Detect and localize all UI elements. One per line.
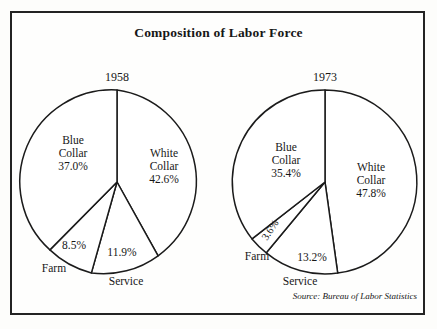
- label-blue-collar-1973-line2: Collar: [271, 154, 301, 167]
- label-service-1973-value: 13.2%: [297, 251, 327, 263]
- label-white-collar-1973-value: 47.8%: [356, 187, 386, 200]
- label-farm-1973-name: Farm: [245, 250, 269, 262]
- label-blue-collar-1973-line1: Blue: [271, 141, 301, 154]
- label-white-collar-1973: White Collar 47.8%: [356, 161, 386, 200]
- source-note: Source: Bureau of Labor Statistics: [293, 291, 417, 301]
- figure-canvas: Composition of Labor Force 1958 Blue Col…: [0, 0, 437, 329]
- label-service-1973-name: Service: [283, 275, 317, 287]
- label-blue-collar-1973: Blue Collar 35.4%: [271, 141, 301, 180]
- label-white-collar-1973-line1: White: [356, 161, 386, 174]
- label-blue-collar-1973-value: 35.4%: [271, 167, 301, 180]
- label-white-collar-1973-line2: Collar: [356, 174, 386, 187]
- year-label-1973: 1973: [313, 70, 337, 85]
